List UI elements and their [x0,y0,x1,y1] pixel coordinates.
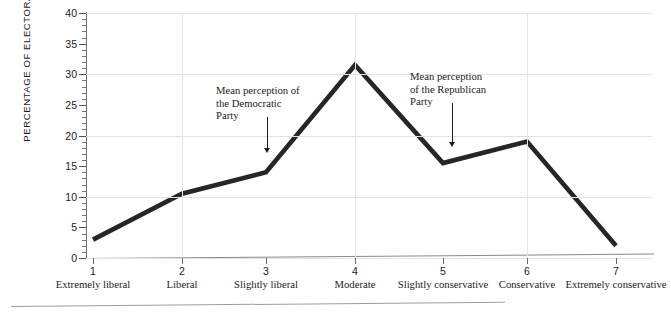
y-gridline [86,258,652,259]
y-tick-label: 5 [71,221,77,233]
y-tick-label: 20 [65,130,77,142]
y-tick-label: 40 [65,7,77,19]
arrow-shaft [452,103,453,142]
x-gridline [527,13,528,258]
y-tick-minor [82,129,86,130]
x-tick [527,258,528,264]
y-tick-label: 25 [65,99,77,111]
arrow-shaft [267,117,268,148]
y-tick-minor [82,25,86,26]
y-tick-major [79,44,86,45]
arrow-head [449,142,455,147]
x-category-number: 7 [560,265,671,277]
y-tick-label: 0 [71,252,77,264]
y-tick-minor [82,38,86,39]
y-tick-major [79,136,86,137]
y-tick-minor [82,31,86,32]
x-tick [266,258,267,264]
y-tick-minor [82,234,86,235]
y-tick-minor [82,50,86,51]
y-tick-minor [82,117,86,118]
y-tick-minor [82,221,86,222]
y-tick-minor [82,191,86,192]
y-tick-minor [82,172,86,173]
footer-rule [11,302,505,308]
y-tick-label: 15 [65,160,77,172]
y-tick-label: 35 [65,38,77,50]
y-tick-minor [82,240,86,241]
y-tick-minor [82,160,86,161]
y-tick-major [79,258,86,259]
y-tick-label: 30 [65,68,77,80]
y-tick-minor [82,93,86,94]
y-tick-minor [82,111,86,112]
y-tick-minor [82,215,86,216]
y-tick-label: 10 [65,191,77,203]
y-tick-major [79,197,86,198]
y-gridline [86,136,652,137]
y-tick-minor [82,56,86,57]
y-tick-major [79,74,86,75]
y-tick-major [79,105,86,106]
y-tick-minor [82,68,86,69]
y-tick-minor [82,154,86,155]
y-tick-minor [82,203,86,204]
y-tick-minor [82,123,86,124]
y-tick-minor [82,99,86,100]
annotation-arrow-down-icon [263,117,273,153]
y-tick-major [79,13,86,14]
y-tick-minor [82,185,86,186]
plot-area: 05101520253035401Extremely liberal2Liber… [86,13,652,258]
y-tick-minor [82,209,86,210]
y-tick-minor [82,178,86,179]
y-tick-minor [82,246,86,247]
arrow-head [264,148,270,153]
x-category-name: Extremely conservative [560,278,671,290]
x-tick [616,258,617,264]
annotation-arrow-down-icon [448,103,458,147]
y-tick-minor [82,87,86,88]
y-tick-minor [82,62,86,63]
y-tick-minor [82,142,86,143]
y-tick-minor [82,148,86,149]
y-tick-major [79,166,86,167]
y-tick-minor [82,80,86,81]
x-tick [182,258,183,264]
x-tick [443,258,444,264]
y-tick-major [79,227,86,228]
x-tick [93,258,94,264]
x-category-label: 7Extremely conservative [560,265,671,291]
y-tick-minor [82,252,86,253]
y-gridline [86,13,652,14]
y-gridline [86,74,652,75]
y-tick-minor [82,19,86,20]
x-tick [355,258,356,264]
x-gridline [355,13,356,258]
annotation-text: Mean perception of the Democratic Party [216,84,300,122]
y-gridline [86,197,652,198]
x-gridline [182,13,183,258]
y-axis-title: PERCENTAGE OF ELECTORATE [21,0,32,162]
